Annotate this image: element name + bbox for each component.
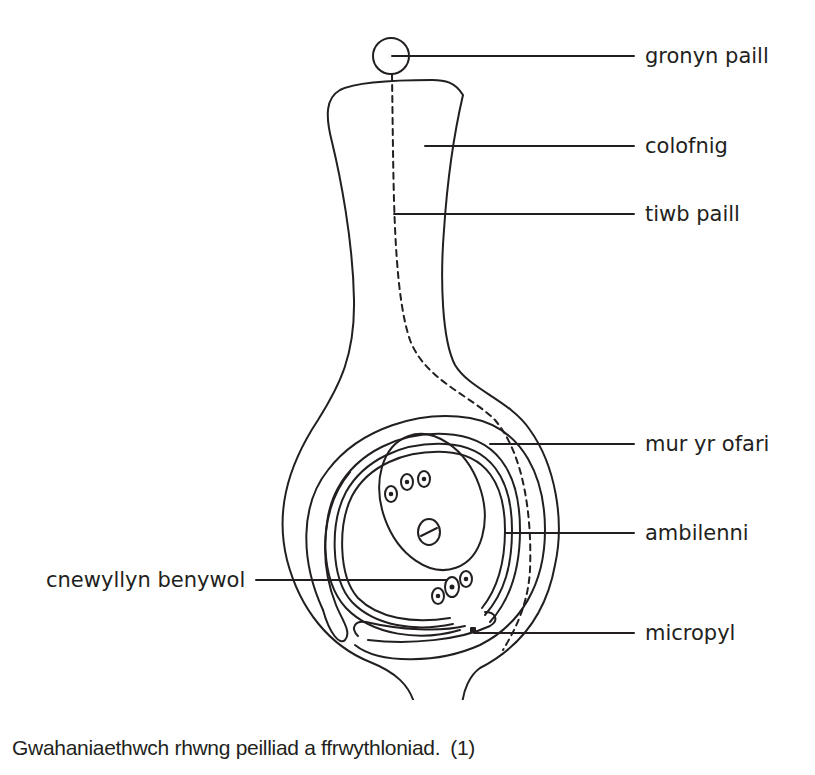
label-pollen-grain: gronyn paill	[645, 44, 769, 68]
ovary-cavity-left-lobe	[323, 472, 350, 641]
question-text: Gwahaniaethwch rhwng peilliad a ffrwythl…	[12, 736, 440, 759]
label-micropyle: micropyl	[645, 621, 735, 645]
label-ovary-wall: mur yr ofari	[645, 432, 769, 456]
micropyle-marker	[471, 628, 475, 632]
label-pollen-tube: tiwb paill	[645, 202, 740, 226]
carpel-drawing	[0, 0, 815, 700]
label-stigma: colofnig	[645, 134, 728, 158]
label-female-nucleus: cnewyllyn benywol	[46, 568, 245, 592]
carpel-diagram: gronyn paill colofnig tiwb paill mur yr …	[0, 0, 815, 700]
label-integuments: ambilenni	[645, 521, 749, 545]
question: Gwahaniaethwch rhwng peilliad a ffrwythl…	[12, 735, 475, 761]
carpel-outline	[283, 80, 559, 700]
question-marks: (1)	[450, 736, 475, 759]
